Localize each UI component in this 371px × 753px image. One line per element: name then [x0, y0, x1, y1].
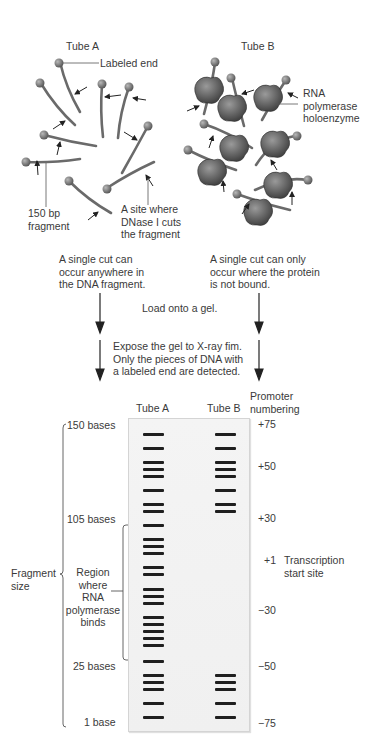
gel-band	[215, 688, 236, 691]
gel-band	[143, 573, 164, 576]
gel-band	[143, 716, 164, 719]
gel-band	[215, 674, 236, 677]
gel-band	[215, 433, 236, 436]
cut-site-label: A site where DNase I cuts the fragment	[121, 203, 181, 241]
expose-step-label: Expose the gel to X-ray fim. Only the pi…	[113, 340, 243, 378]
promoter-minus-75: −75	[258, 717, 276, 730]
gel-band	[215, 510, 236, 513]
size-label-1: 1 base	[84, 716, 116, 729]
gel-band	[143, 602, 164, 605]
fragment-label: 150 bp fragment	[28, 207, 69, 232]
gel-band	[143, 644, 164, 647]
tube-b-caption: A single cut can only occur where the pr…	[210, 253, 320, 291]
promoter-minus-50: −50	[258, 660, 276, 673]
fragment-size-label: Fragment size	[11, 567, 56, 592]
gel-band	[143, 630, 164, 633]
gel-image	[128, 418, 250, 732]
gel-band	[143, 637, 164, 640]
gel-band	[143, 524, 164, 527]
rna-polymerase-label: RNA polymerase holoenzyme	[303, 87, 360, 125]
tube-a-caption: A single cut can occur anywhere in the D…	[59, 253, 145, 291]
gel-band	[143, 461, 164, 464]
gel-band	[215, 702, 236, 705]
gel-band	[143, 616, 164, 619]
gel-band	[143, 681, 164, 684]
gel-band	[215, 681, 236, 684]
gel-band	[143, 688, 164, 691]
gel-band	[143, 566, 164, 569]
promoter-plus-30: +30	[258, 512, 276, 525]
gel-band	[215, 461, 236, 464]
gel-band	[143, 503, 164, 506]
size-label-150: 150 bases	[67, 419, 115, 432]
transcription-start-site-label: Transcription start site	[284, 554, 344, 579]
tube-a-cut-arrows	[37, 87, 153, 220]
gel-band	[143, 702, 164, 705]
size-label-105: 105 bases	[67, 513, 115, 526]
promoter-plus-50: +50	[258, 460, 276, 473]
size-label-25: 25 bases	[73, 660, 116, 673]
gel-band	[143, 510, 164, 513]
gel-band	[143, 433, 164, 436]
gel-band	[215, 489, 236, 492]
gel-band	[215, 716, 236, 719]
gel-band	[143, 660, 164, 663]
promoter-numbering-header: Promoter numbering	[250, 390, 300, 415]
labeled-end-label: Labeled end	[100, 57, 158, 70]
gel-lane-b-label: Tube B	[207, 402, 240, 415]
gel-band	[143, 475, 164, 478]
gel-band	[143, 552, 164, 555]
promoter-minus-30: −30	[258, 604, 276, 617]
gel-band	[143, 545, 164, 548]
gel-band	[143, 538, 164, 541]
gel-band	[143, 588, 164, 591]
gel-band	[143, 595, 164, 598]
gel-band	[215, 468, 236, 471]
promoter-plus-1: +1	[264, 554, 276, 567]
gel-band	[143, 674, 164, 677]
load-step-label: Load onto a gel.	[142, 302, 217, 315]
polymerase-binding-region-label: Region where RNA polymerase binds	[63, 566, 123, 629]
gel-band	[143, 623, 164, 626]
tube-a-title: Tube A	[66, 40, 99, 53]
gel-band	[143, 447, 164, 450]
gel-band	[215, 475, 236, 478]
gel-band	[143, 468, 164, 471]
rna-polymerase-shapes	[195, 77, 293, 225]
tube-b-title: Tube B	[241, 40, 274, 53]
gel-band	[215, 447, 236, 450]
gel-band	[143, 489, 164, 492]
tube-b-dna-with-polymerase	[184, 58, 313, 226]
gel-band	[215, 503, 236, 506]
promoter-plus-75: +75	[258, 418, 276, 431]
gel-lane-a-label: Tube A	[136, 402, 169, 415]
